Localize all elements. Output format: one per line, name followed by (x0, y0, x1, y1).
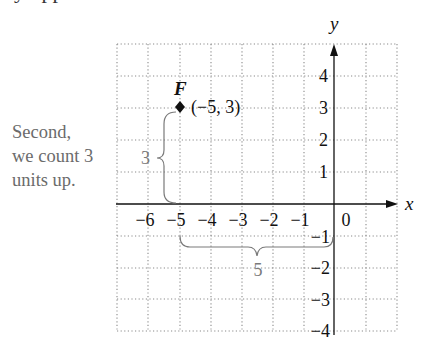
y-tick-label: 2 (319, 130, 328, 150)
y-axis-arrow-icon (330, 44, 338, 56)
y-tick-label: −2 (311, 258, 330, 278)
x-axis-label: x (404, 193, 414, 214)
point-f-marker-icon (175, 101, 185, 113)
x-tick-label: −1 (290, 210, 309, 230)
vertical-brace-label: 3 (141, 148, 150, 168)
y-tick-label: −1 (311, 227, 330, 247)
figure: y upp Second, we count 3 units up. (0, 0, 432, 355)
x-tick-label: −5 (166, 210, 185, 230)
horizontal-brace-label: 5 (254, 260, 263, 280)
x-tick-label: −4 (197, 210, 216, 230)
y-tick-label: −4 (311, 321, 330, 341)
point-coordinates-label: (−5, 3) (191, 97, 240, 118)
y-tick-label: −3 (311, 290, 330, 310)
x-axis-arrow-icon (386, 200, 398, 208)
x-tick-label: −3 (228, 210, 247, 230)
grid (117, 44, 397, 331)
point-label: F (173, 78, 187, 99)
y-axis-label: y (328, 13, 339, 34)
y-tick-label: 3 (319, 98, 328, 118)
axes (116, 44, 398, 335)
y-tick-label: 1 (319, 162, 328, 182)
x-tick-label: −2 (259, 210, 278, 230)
origin-label: 0 (342, 210, 351, 230)
y-tick-label: 4 (319, 66, 328, 86)
coordinate-plane: x y −6 −5 −4 −3 −2 −1 0 1 2 3 4 −1 −2 −3… (0, 0, 432, 355)
vertical-brace (157, 112, 176, 203)
x-tick-label: −6 (135, 210, 154, 230)
